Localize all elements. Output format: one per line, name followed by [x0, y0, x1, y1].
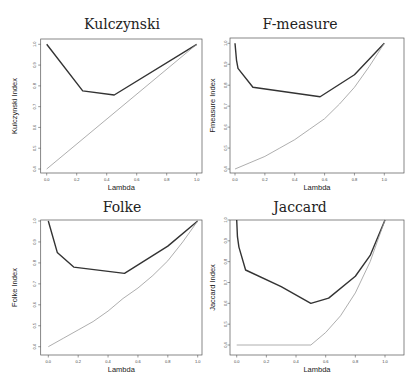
- jaccard-chart: Jaccard0.40.50.60.70.80.91.00.00.20.40.6…: [205, 195, 409, 390]
- upper-series-line: [237, 220, 385, 303]
- y-tick-label: 0.7: [32, 103, 37, 109]
- folke-panel: Folke0.40.50.60.70.80.91.00.00.20.40.60.…: [0, 195, 204, 390]
- x-tick-label: 0.6: [323, 359, 329, 364]
- chart-title: F-measure: [263, 16, 338, 32]
- plot-frame: [41, 220, 202, 355]
- y-tick-label: 0.8: [223, 82, 228, 88]
- fmeasure-panel: F-measure0.40.50.60.70.80.91.00.00.20.40…: [205, 0, 409, 195]
- upper-series-line: [47, 44, 197, 95]
- chart-title: Folke: [103, 199, 142, 215]
- chart-title: Jaccard: [271, 199, 327, 215]
- y-tick-label: 0.5: [223, 321, 228, 327]
- x-tick-label: 0.6: [135, 359, 141, 364]
- y-axis-label: Fmeasure Index: [208, 78, 217, 132]
- y-tick-label: 0.6: [223, 300, 228, 306]
- x-tick-label: 0.4: [292, 177, 298, 182]
- y-tick-label: 0.9: [32, 62, 37, 68]
- x-tick-label: 0.0: [234, 359, 240, 364]
- plot-frame: [41, 39, 202, 173]
- y-tick-label: 0.8: [223, 258, 228, 264]
- x-axis-label: Lambda: [108, 183, 136, 192]
- y-tick-label: 0.5: [223, 144, 228, 150]
- y-tick-label: 0.7: [223, 279, 228, 285]
- x-tick-label: 0.4: [293, 359, 299, 364]
- x-tick-label: 0.8: [164, 177, 170, 182]
- y-tick-label: 0.4: [32, 343, 37, 349]
- x-tick-label: 1.0: [195, 359, 201, 364]
- y-axis-label: Jaccard Index: [208, 264, 217, 311]
- y-tick-label: 0.5: [32, 145, 37, 151]
- y-tick-label: 0.9: [32, 238, 37, 244]
- x-tick-label: 0.8: [353, 359, 359, 364]
- x-axis-label: Lambda: [303, 183, 331, 192]
- y-tick-label: 0.9: [223, 237, 228, 243]
- x-tick-label: 0.8: [165, 359, 171, 364]
- y-tick-label: 0.4: [223, 165, 228, 171]
- y-tick-label: 0.6: [223, 124, 228, 130]
- y-tick-label: 1.0: [223, 216, 228, 222]
- x-tick-label: 0.2: [75, 359, 81, 364]
- x-tick-label: 0.2: [264, 359, 270, 364]
- y-tick-label: 0.7: [223, 103, 228, 109]
- x-tick-label: 0.0: [44, 177, 50, 182]
- kulczynski-chart: Kulczynski0.40.50.60.70.80.91.00.00.20.4…: [0, 0, 204, 195]
- lower-series-line: [47, 44, 197, 169]
- x-tick-label: 1.0: [194, 177, 200, 182]
- y-tick-label: 1.0: [32, 41, 37, 47]
- y-tick-label: 0.6: [32, 124, 37, 130]
- jaccard-panel: Jaccard0.40.50.60.70.80.91.00.00.20.40.6…: [205, 195, 409, 390]
- upper-series-line: [235, 43, 384, 96]
- y-axis-label: Folke Index: [10, 268, 19, 307]
- y-tick-label: 1.0: [32, 217, 37, 223]
- kulczynski-panel: Kulczynski0.40.50.60.70.80.91.00.00.20.4…: [0, 0, 204, 195]
- folke-chart: Folke0.40.50.60.70.80.91.00.00.20.40.60.…: [0, 195, 204, 390]
- fmeasure-chart: F-measure0.40.50.60.70.80.91.00.00.20.40…: [205, 0, 409, 195]
- x-tick-label: 1.0: [382, 359, 388, 364]
- x-tick-label: 0.4: [105, 359, 111, 364]
- x-axis-label: Lambda: [303, 365, 331, 374]
- x-tick-label: 0.0: [46, 359, 52, 364]
- lower-series-line: [237, 220, 385, 345]
- y-tick-label: 0.5: [32, 322, 37, 328]
- x-tick-label: 0.8: [352, 177, 358, 182]
- x-axis-label: Lambda: [108, 365, 136, 374]
- plot-frame: [230, 38, 404, 173]
- x-tick-label: 0.6: [134, 177, 140, 182]
- y-tick-label: 0.9: [223, 61, 228, 67]
- x-tick-label: 0.4: [104, 177, 110, 182]
- y-tick-label: 0.6: [32, 301, 37, 307]
- y-tick-label: 0.8: [32, 82, 37, 88]
- lower-series-line: [235, 43, 384, 169]
- upper-series-line: [48, 221, 197, 273]
- y-tick-label: 0.4: [32, 165, 37, 171]
- x-tick-label: 0.2: [74, 177, 80, 182]
- y-tick-label: 1.0: [223, 40, 228, 46]
- y-axis-label: Kulczynski Index: [10, 78, 19, 134]
- y-tick-label: 0.8: [32, 259, 37, 265]
- x-tick-label: 0.6: [322, 177, 328, 182]
- x-tick-label: 0.0: [232, 177, 238, 182]
- y-tick-label: 0.4: [223, 341, 228, 347]
- chart-title: Kulczynski: [84, 16, 160, 32]
- x-tick-label: 1.0: [382, 177, 388, 182]
- x-tick-label: 0.2: [262, 177, 268, 182]
- y-tick-label: 0.7: [32, 280, 37, 286]
